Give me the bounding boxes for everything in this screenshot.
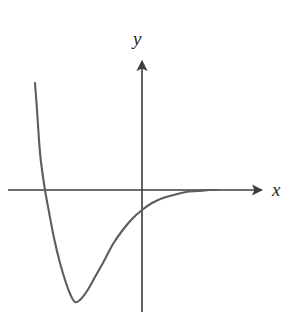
y-axis-label: y (133, 29, 141, 48)
function-curve (35, 83, 218, 302)
x-axis-label: x (272, 180, 280, 199)
plot-canvas (0, 0, 298, 322)
graph-figure: y x (0, 0, 298, 322)
